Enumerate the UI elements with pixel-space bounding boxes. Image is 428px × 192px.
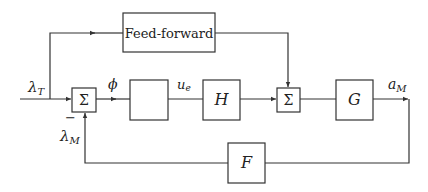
feedback-signal-label: λM xyxy=(59,127,81,146)
control-signal-label: ue xyxy=(177,77,191,93)
output-signal-label: aM xyxy=(388,76,407,94)
feedforward-label: Feed-forward xyxy=(125,26,214,41)
controller-block xyxy=(130,80,168,120)
feedforward-out-line xyxy=(215,33,288,87)
input-signal-label: λT xyxy=(27,78,46,97)
sum2-label: Σ xyxy=(284,92,294,108)
sum1-label: Σ xyxy=(79,92,89,108)
block-diagram: Feed-forward Σ H Σ G F λT ϕ ue aM − λM xyxy=(0,0,428,192)
f-label: F xyxy=(240,153,253,172)
minus-sign: − xyxy=(65,110,76,125)
error-signal-label: ϕ xyxy=(108,76,118,92)
g-label: G xyxy=(348,90,361,109)
h-label: H xyxy=(214,90,230,109)
